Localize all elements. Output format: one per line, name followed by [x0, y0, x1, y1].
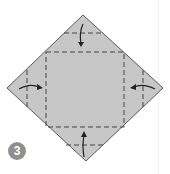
step-number-badge: 3	[8, 142, 26, 160]
paper-diamond	[7, 15, 163, 161]
